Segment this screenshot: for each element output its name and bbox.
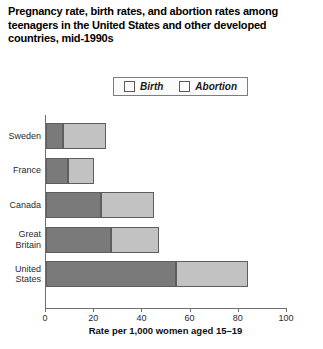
x-axis-tick bbox=[93, 308, 94, 312]
dark-gray-swatch-icon bbox=[124, 81, 135, 92]
bar-segment-birth[interactable] bbox=[46, 123, 63, 149]
bar-row[interactable] bbox=[46, 158, 94, 184]
category-label-united-states: United States bbox=[0, 264, 41, 285]
legend-item-abortion[interactable]: Abortion bbox=[179, 81, 237, 92]
legend-label-birth: Birth bbox=[140, 81, 163, 92]
x-axis-tick-label: 0 bbox=[42, 313, 47, 323]
bar-segment-birth[interactable] bbox=[46, 192, 101, 218]
x-axis-tick bbox=[286, 308, 287, 312]
x-axis-tick-label: 80 bbox=[233, 313, 243, 323]
bar-segment-abortion[interactable] bbox=[63, 123, 106, 149]
bar-segment-abortion[interactable] bbox=[68, 158, 95, 184]
x-axis-tick bbox=[190, 308, 191, 312]
x-axis-tick-label: 60 bbox=[185, 313, 195, 323]
x-axis-tick-label: 40 bbox=[136, 313, 146, 323]
category-label-sweden: Sweden bbox=[0, 131, 41, 142]
bar-row[interactable] bbox=[46, 123, 106, 149]
bar-segment-abortion[interactable] bbox=[176, 261, 248, 287]
legend-item-birth[interactable]: Birth bbox=[124, 81, 163, 92]
x-axis-tick-label: 100 bbox=[278, 313, 293, 323]
x-axis-tick bbox=[45, 308, 46, 312]
bar-segment-abortion[interactable] bbox=[111, 227, 159, 253]
bar-row[interactable] bbox=[46, 227, 159, 253]
category-label-great-britain: Great Britain bbox=[0, 229, 41, 250]
bar-row[interactable] bbox=[46, 192, 154, 218]
bar-segment-birth[interactable] bbox=[46, 227, 111, 253]
x-axis-tick bbox=[238, 308, 239, 312]
bar-segment-abortion[interactable] bbox=[101, 192, 154, 218]
x-axis-tick bbox=[141, 308, 142, 312]
category-label-canada: Canada bbox=[0, 200, 41, 211]
bar-segment-birth[interactable] bbox=[46, 158, 68, 184]
category-label-france: France bbox=[0, 165, 41, 176]
chart-title: Pregnancy rate, birth rates, and abortio… bbox=[8, 5, 308, 46]
bar-row[interactable] bbox=[46, 261, 248, 287]
x-axis-tick-label: 20 bbox=[88, 313, 98, 323]
legend-label-abortion: Abortion bbox=[195, 81, 237, 92]
chart-legend: Birth Abortion bbox=[113, 77, 248, 96]
x-axis-title: Rate per 1,000 women aged 15–19 bbox=[45, 325, 286, 336]
x-axis: 020406080100 bbox=[45, 308, 286, 309]
y-axis-category-labels: SwedenFranceCanadaGreat BritainUnited St… bbox=[0, 115, 41, 308]
light-gray-swatch-icon bbox=[179, 81, 190, 92]
bar-segment-birth[interactable] bbox=[46, 261, 176, 287]
chart-plot-area: SwedenFranceCanadaGreat BritainUnited St… bbox=[0, 115, 323, 349]
bars-container bbox=[45, 115, 287, 308]
